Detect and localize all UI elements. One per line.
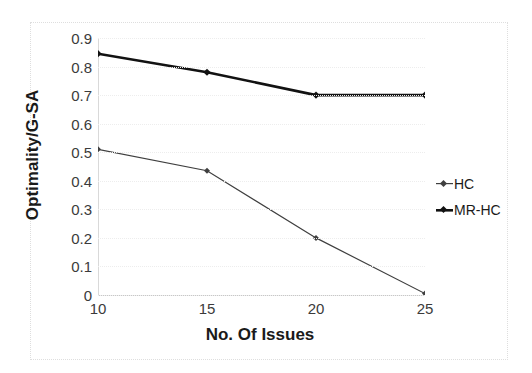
y-axis-tick-label: 0.6	[46, 117, 92, 132]
legend-label: HC	[454, 176, 474, 192]
y-axis-tick-label: 0.7	[46, 88, 92, 103]
gridline	[98, 181, 425, 182]
gridline	[98, 95, 425, 96]
legend-entry-mr-hc[interactable]: MR-HC	[436, 197, 506, 223]
y-axis-tick-label: 0.4	[46, 174, 92, 189]
x-axis-tick-label: 20	[294, 301, 338, 316]
x-axis-tick-label: 15	[185, 301, 229, 316]
gridline	[98, 209, 425, 210]
x-axis-tick-label: 25	[403, 301, 447, 316]
legend-label: MR-HC	[454, 202, 501, 218]
x-axis-tick-labels: 10152025	[98, 301, 425, 323]
gridline	[98, 67, 425, 68]
legend-marker-icon	[436, 178, 453, 190]
y-axis-tick-label: 0.1	[46, 259, 92, 274]
plot-area	[98, 38, 425, 295]
y-axis-tick-label: 0.2	[46, 231, 92, 246]
gridline	[98, 295, 425, 296]
legend-entry-hc[interactable]: HC	[436, 171, 506, 197]
gridline	[98, 38, 425, 39]
gridline	[98, 152, 425, 153]
chart-figure: Optimality/G-SA 0.90.80.70.60.50.40.30.2…	[0, 0, 532, 373]
gridlines	[98, 38, 425, 295]
gridline	[98, 124, 425, 125]
gridline	[98, 266, 425, 267]
y-axis-tick-label: 0.9	[46, 31, 92, 46]
x-axis-tick-label: 10	[76, 301, 120, 316]
y-axis-tick-label: 0.3	[46, 202, 92, 217]
y-axis-tick-label: 0.8	[46, 60, 92, 75]
gridline	[98, 238, 425, 239]
y-axis-tick-label: 0.5	[46, 145, 92, 160]
legend-marker-icon	[436, 204, 453, 216]
y-axis-tick-labels: 0.90.80.70.60.50.40.30.20.10	[42, 38, 92, 295]
x-axis-title: No. Of Issues	[60, 325, 460, 345]
y-axis-title: Optimality/G-SA	[23, 60, 43, 250]
chart-legend: HCMR-HC	[436, 171, 506, 223]
